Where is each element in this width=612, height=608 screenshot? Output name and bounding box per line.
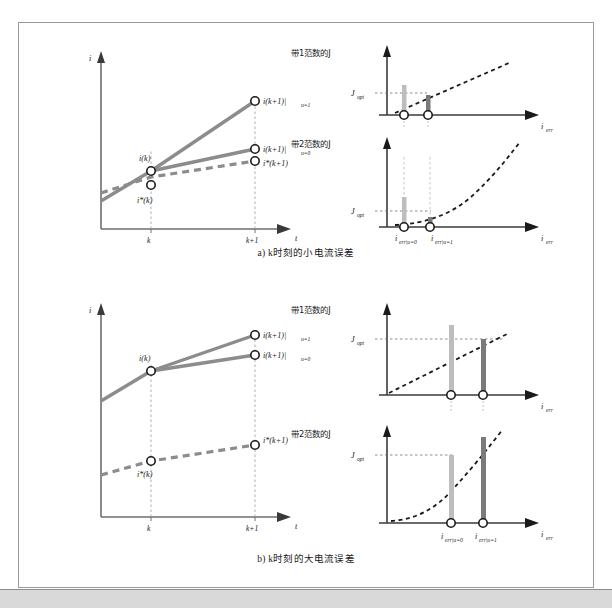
label-i-star-k1: i*(k+1) [263,436,288,445]
x-axis-arrow [525,390,539,400]
panel-title-norm1: 带1范数的J [291,305,331,315]
panel-title-norm2: 带2范数的J [291,139,331,149]
marker-i-k1-u1 [251,97,259,105]
y-axis-arrow [97,303,105,315]
caption-a: a) k时刻的小电流误差 [19,245,593,259]
tick-label-u1: i [475,532,478,541]
cost-curve-norm1 [395,63,509,113]
marker-ierr-u1 [479,391,487,399]
marker-i-k1-u0 [251,351,259,359]
axis-x-label-sub: err [546,407,554,413]
figure-frame: i t k k+1 i(k) i*(k) i(k+1)| [18,22,594,588]
marker-i-star-k [147,457,155,465]
y-axis-arrow [97,51,105,63]
marker-ierr-u0 [400,111,408,119]
label-i-star-k: i*(k) [137,470,153,479]
cost-curve-norm2 [395,143,519,225]
axis-x-label: i [541,234,544,243]
marker-ierr-u1 [479,519,487,527]
tick-label-u0-sub: err|u=0 [445,537,463,543]
cost-bar-u1 [481,339,486,395]
cost-bar-u0 [449,455,454,523]
label-i-k1-u0: i(k+1)| [263,351,286,360]
label-i-k1-u1: i(k+1)| [263,97,286,106]
jopt-label-sub: opt [357,340,365,346]
jopt-label: J [351,207,355,216]
axis-x-label-sub: err [546,535,554,541]
marker-ierr-u1 [426,223,434,231]
cost-bar-u0 [449,325,454,395]
tick-label-u1: i [431,234,434,243]
marker-i-star-k1 [251,441,259,449]
marker-i-star-k [147,181,155,189]
jopt-label-sub: opt [357,212,365,218]
bottom-strip [0,589,612,608]
marker-i-k1-u1 [251,331,259,339]
y-axis-arrow [383,303,391,315]
marker-ierr-u0 [447,391,455,399]
axis-y-label: i [89,306,92,315]
panel-title-norm1: 带1范数的J [291,48,331,58]
tick-label-k1: k+1 [246,524,258,533]
jopt-label-sub: opt [357,94,365,100]
tick-label-k: k [147,236,151,245]
axis-y-label: i [89,54,92,63]
tick-label-u0: i [441,532,444,541]
panel-title-norm2: 带2范数的J [291,429,331,439]
tick-label-u0: i [395,234,398,243]
caption-b: b) k时刻的大电流误差 [19,551,593,565]
panel-b-norm1-chart: 带1范数的J i err J opt [291,295,581,413]
axis-x-label: i [541,122,544,131]
panel-a-left-chart: i t k k+1 i(k) i*(k) i(k+1)| [69,33,319,248]
axis-x-label: i [541,402,544,411]
label-i-star-k1: i*(k+1) [263,159,288,168]
panel-a-norm2-chart: 带2范数的J i err J opt i err|u= [291,131,581,255]
marker-ierr-u0 [447,519,455,527]
marker-i-k [147,367,155,375]
jopt-label-sub: opt [357,456,365,462]
predicted-current-u1 [101,101,255,201]
predicted-current-u0 [151,355,255,371]
marker-i-k1-u0 [251,145,259,153]
marker-i-k [147,167,155,175]
panel-b-left-chart: i t k k+1 i(k) i*(k) i(k+1)| u=1 [69,285,319,535]
x-axis-arrow [277,224,291,234]
panel-a-norm1-chart: 带1范数的J i err J opt [291,37,581,135]
reference-current-dashed [101,445,255,475]
axis-x-label: i [541,530,544,539]
tick-label-u1-sub: err|u=1 [479,537,497,543]
y-axis-arrow [383,425,391,437]
y-axis-arrow [383,45,391,57]
x-axis-arrow [525,222,539,232]
x-axis-arrow [525,110,539,120]
marker-i-star-k1 [251,157,259,165]
marker-ierr-u1 [424,111,432,119]
label-i-k1-u0: i(k+1)| [263,145,286,154]
jopt-label: J [351,89,355,98]
label-i-k: i(k) [139,154,151,163]
jopt-label: J [351,335,355,344]
marker-ierr-u0 [400,223,408,231]
cost-curve-norm2 [391,429,503,521]
x-axis-arrow [277,512,291,522]
y-axis-arrow [383,137,391,149]
label-i-k1-u1: i(k+1)| [263,331,286,340]
label-i-k: i(k) [139,354,151,363]
tick-label-k: k [147,524,151,533]
jopt-label: J [351,451,355,460]
tick-label-k1: k+1 [246,236,258,245]
label-i-star-k: i*(k) [137,196,153,205]
cost-bar-u1 [481,437,486,523]
x-axis-arrow [525,518,539,528]
panel-b-norm2-chart: 带2范数的J i err J opt i err|u=0 i err|u= [291,415,581,551]
